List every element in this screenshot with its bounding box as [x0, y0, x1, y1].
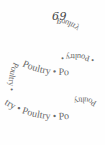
book-page: 69 Poultry • Poultry • Poultry • Poultry… — [0, 0, 105, 145]
helix-text-illustration: Poultry • Poultry • Poultry • Poultry • … — [0, 0, 105, 145]
helix-back-middle: • Poultry • — [60, 52, 96, 66]
helix-back-lower: Poultry — [72, 95, 98, 109]
helix-front-lower: try • Poultry • Po — [3, 96, 69, 121]
helix-back-upper: Poultry — [56, 16, 82, 34]
helix-left-middle: Poultry • — [7, 61, 22, 91]
